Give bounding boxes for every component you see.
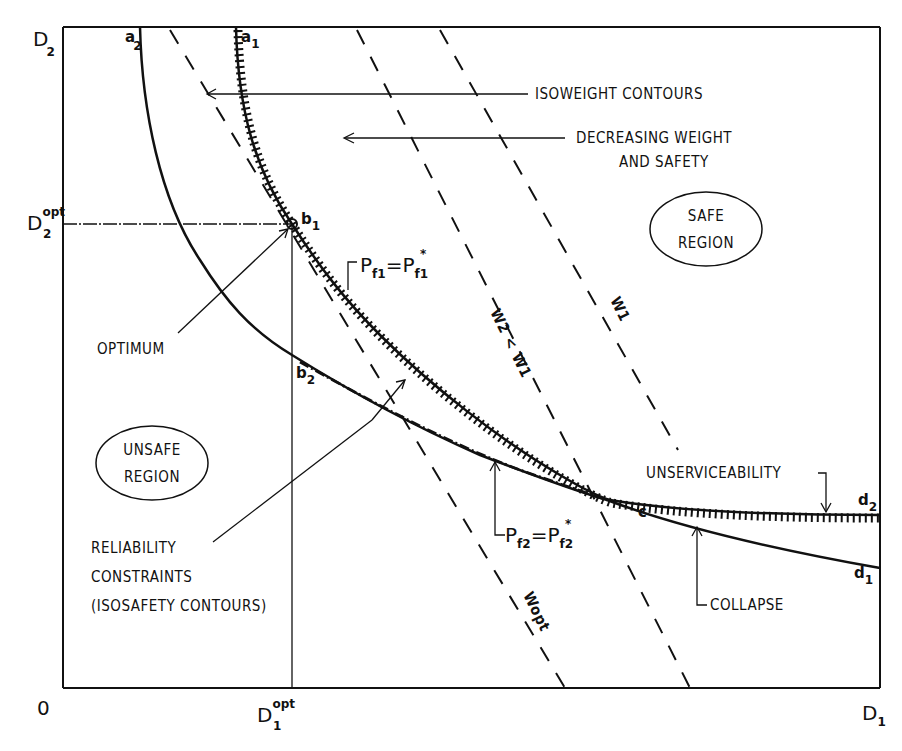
- contour-wopt: [170, 30, 565, 688]
- y-axis-label: D2: [33, 27, 55, 59]
- pf1-label: Pf1=Pf1*: [360, 247, 428, 281]
- design-space-diagram: 0 D1 D2 Dopt1 Dopt2 a1 a2 b1 b2 c d1 d2 …: [0, 0, 902, 751]
- unsafe-region-ellipse: [96, 426, 208, 500]
- unsafe-region-line1: UNSAFE: [123, 441, 180, 459]
- contour-w2-label: W2<W1: [486, 306, 535, 381]
- y-opt-label: Dopt2: [27, 205, 65, 241]
- safe-region-line1: SAFE: [688, 207, 724, 225]
- contour-wopt-label: Wopt: [519, 589, 553, 634]
- safe-region-line2: REGION: [678, 234, 734, 252]
- isoweight-label: ISOWEIGHT CONTOURS: [535, 85, 703, 103]
- decreasing-label-line2: AND SAFETY: [619, 153, 709, 171]
- decreasing-label-line1: DECREASING WEIGHT: [576, 129, 732, 147]
- pf2-curve: [300, 362, 607, 500]
- pf2-label: Pf2=Pf2*: [505, 517, 573, 551]
- point-d2-label: d2: [858, 491, 877, 514]
- collapse-label: COLLAPSE: [710, 596, 784, 614]
- safe-region-ellipse: [650, 192, 762, 266]
- collapse-curve: [140, 27, 880, 568]
- plot-frame: [63, 27, 880, 688]
- x-opt-label: Dopt1: [257, 697, 295, 733]
- point-c-label: c: [638, 503, 647, 521]
- unsafe-region-line2: REGION: [124, 468, 180, 486]
- reliability-label-line3: (ISOSAFETY CONTOURS): [91, 597, 267, 615]
- hatching: [238, 30, 882, 518]
- contour-w1-label: W1: [606, 294, 633, 325]
- point-b1-label: b1: [301, 210, 320, 233]
- optimum-label: OPTIMUM: [97, 340, 165, 358]
- point-a1-label: a1: [241, 28, 259, 51]
- unserviceability-label: UNSERVICEABILITY: [646, 464, 781, 482]
- origin-label: 0: [37, 696, 50, 720]
- x-axis-label: D1: [862, 701, 886, 729]
- reliability-label-line2: CONSTRAINTS: [91, 568, 192, 586]
- reliability-label-line1: RELIABILITY: [91, 539, 177, 557]
